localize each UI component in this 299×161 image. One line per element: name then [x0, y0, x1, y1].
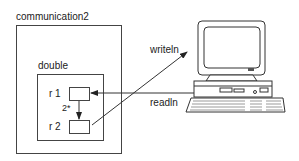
- connectors: [0, 0, 299, 161]
- desktop-computer-icon: [186, 21, 285, 112]
- writeln-arrow: [92, 52, 187, 125]
- diagram-canvas: communication2 double r 1 r 2 2* writeln…: [0, 0, 299, 161]
